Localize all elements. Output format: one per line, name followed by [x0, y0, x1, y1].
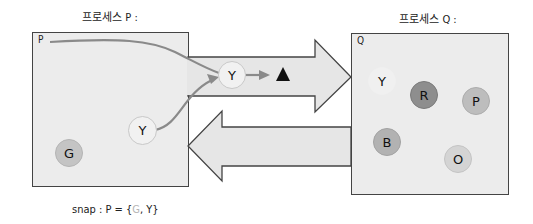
channel-diagram [0, 0, 533, 224]
marble-r-in-q: R [410, 81, 438, 109]
channel-q-to-p-arrow [188, 111, 351, 181]
marble-y-in-transit: Y [218, 61, 246, 89]
snapshot-caption: snap : P = {G, Y} [72, 203, 159, 216]
marble-o-in-q: O [444, 145, 472, 173]
marble-p-in-q: P [462, 87, 490, 115]
snapshot-suffix: } [152, 203, 158, 216]
marble-b-in-q: B [373, 128, 401, 156]
marble-y-in-q: Y [368, 67, 396, 95]
marble-y-in-p: Y [128, 116, 157, 145]
marble-g-in-p: G [55, 139, 83, 167]
snapshot-dim-item: G [132, 203, 140, 216]
snapshot-prefix: snap : P = { [72, 203, 132, 216]
